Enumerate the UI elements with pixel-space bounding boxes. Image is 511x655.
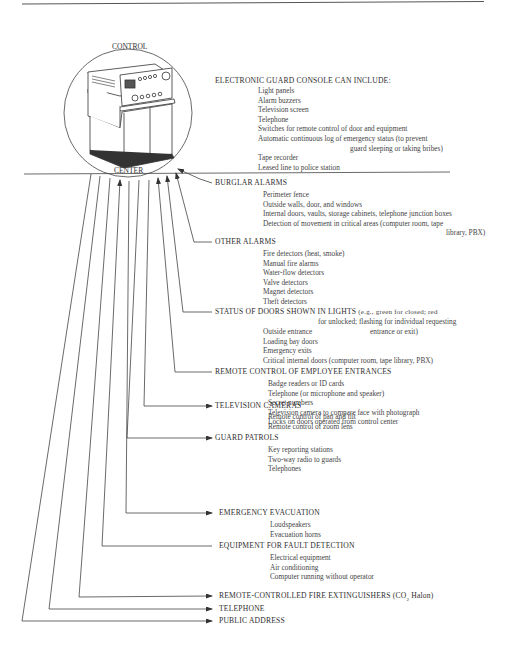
list-item: Emergency exits: [263, 346, 433, 356]
section-telephone: TELEPHONE: [219, 604, 265, 613]
tv-camera-items: Remote control of pan and tilt Remote co…: [268, 412, 356, 431]
list-item: Air conditioning: [270, 563, 374, 573]
list-item: Computer running without operator: [270, 572, 374, 582]
section-burglar-alarms: BURGLAR ALARMS: [215, 178, 287, 187]
section-public-address: PUBLIC ADDRESS: [219, 616, 285, 625]
list-item: Outside walls, door, and windows: [263, 200, 485, 210]
list-item: Fire detectors (heat, smoke): [263, 249, 344, 259]
fault-detection-items: Electrical equipment Air conditioning Co…: [270, 553, 374, 582]
section-guard-patrols: GUARD PATROLS: [215, 433, 279, 442]
list-item: Key reporting stations: [268, 445, 341, 455]
list-item: Telephone (or microphone and speaker): [268, 389, 419, 399]
center-label: CENTER: [114, 166, 143, 175]
section-employee-entrances: REMOTE CONTROL OF EMPLOYEE ENTRANCES: [215, 367, 392, 376]
list-item: library, PBX): [263, 228, 485, 238]
list-item: Manual fire alarms: [263, 259, 344, 269]
console-item: Alarm buzzers: [258, 96, 443, 106]
list-item: Evacuation horns: [270, 530, 321, 540]
list-item: Critical internal doors (computer room, …: [263, 356, 433, 366]
list-item: Magnet detectors: [263, 287, 344, 297]
section-other-alarms: OTHER ALARMS: [215, 237, 276, 246]
other-alarms-items: Fire detectors (heat, smoke) Manual fire…: [263, 249, 344, 307]
section-fault-detection: EQUIPMENT FOR FAULT DETECTION: [219, 541, 355, 550]
console-item: Television screen: [258, 105, 443, 115]
door-status-note: for unlocked; flashing for individual re…: [318, 317, 456, 327]
list-item: Detection of movement in critical areas …: [263, 219, 485, 229]
guard-patrol-items: Key reporting stations Two-way radio to …: [268, 445, 341, 474]
console-item: Switches for remote control of door and …: [258, 124, 443, 134]
list-item: Telephones: [268, 464, 341, 474]
console-item: Automatic continuous log of emergency st…: [258, 134, 443, 144]
list-item: Electrical equipment: [270, 553, 374, 563]
console-title: ELECTRONIC GUARD CONSOLE CAN INCLUDE:: [215, 76, 391, 85]
list-item: Loading bay doors: [263, 337, 433, 347]
console-item: guard sleeping or taking bribes): [258, 144, 443, 154]
section-fire-extinguishers: REMOTE-CONTROLLED FIRE EXTINGUISHERS (CO…: [219, 591, 434, 602]
list-item: Two-way radio to guards: [268, 455, 341, 465]
list-item: Outside entrance: [263, 327, 433, 337]
section-emergency-evacuation: EMERGENCY EVACUATION: [219, 508, 320, 517]
control-label: CONTROL: [112, 42, 147, 51]
console-items: Light panels Alarm buzzers Television sc…: [258, 86, 443, 172]
list-item: Perimeter fence: [263, 190, 485, 200]
list-item: Theft detectors: [263, 297, 344, 307]
list-item: Internal doors, vaults, storage cabinets…: [263, 209, 485, 219]
list-item: Badge readers or ID cards: [268, 379, 419, 389]
console-item: Light panels: [258, 86, 443, 96]
section-door-status: STATUS OF DOORS SHOWN IN LIGHTS (e.g., g…: [215, 307, 438, 318]
console-drawing: [88, 64, 175, 168]
list-item: Valve detectors: [263, 278, 344, 288]
console-item: Telephone: [258, 115, 443, 125]
list-item: Water-flow detectors: [263, 268, 344, 278]
list-item: Remote control of zoom lens: [268, 422, 356, 432]
list-item: Remote control of pan and tilt: [268, 412, 356, 422]
console-item: Leased line to police station: [258, 163, 443, 173]
console-item: Tape recorder: [258, 153, 443, 163]
evacuation-items: Loudspeakers Evacuation horns: [270, 520, 321, 539]
list-item: Loudspeakers: [270, 520, 321, 530]
burglar-items: Perimeter fence Outside walls, door, and…: [263, 190, 485, 238]
section-tv-cameras: TELEVISION CAMERAS: [215, 401, 302, 410]
door-status-items: Outside entrance Loading bay doors Emerg…: [263, 327, 433, 365]
